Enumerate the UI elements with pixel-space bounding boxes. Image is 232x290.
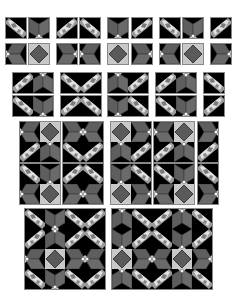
gem-diagonal-tl-br-icon <box>13 96 33 116</box>
gem-diagonal-tr-bl-icon <box>61 96 81 116</box>
chevron-down-icon <box>112 229 132 249</box>
gem-diagonal-tl-br-icon <box>154 164 174 184</box>
gem-diagonal-tr-bl-icon <box>152 209 172 229</box>
tile-group <box>5 43 27 65</box>
gem-diagonal-tr-bl-icon <box>20 142 40 162</box>
gem-diagonal-tl-br-icon <box>132 269 152 289</box>
tile-group <box>153 163 195 205</box>
chevron-right-icon <box>132 44 152 64</box>
gem-diagonal-tl-br-icon <box>132 209 152 229</box>
gem-diagonal-tr-bl-icon <box>211 18 231 38</box>
chevron-left-icon <box>80 44 100 64</box>
chevron-up-icon <box>45 229 65 249</box>
chevron-right-icon <box>198 184 218 204</box>
gem-diagonal-tr-bl-icon <box>154 142 174 162</box>
tile-group <box>12 95 54 117</box>
chevron-down-icon <box>45 209 65 229</box>
chevron-down-icon <box>172 229 192 249</box>
chevron-left-icon <box>6 44 26 64</box>
diamond-icon <box>174 122 194 142</box>
tile-group <box>62 121 104 163</box>
gem-diagonal-tr-bl-icon <box>204 96 224 116</box>
gem-diagonal-tr-bl-icon <box>192 229 212 249</box>
tile-group <box>203 95 225 117</box>
chevron-right-icon <box>131 184 151 204</box>
chevron-right-icon <box>63 122 83 142</box>
chevron-up-icon <box>108 73 128 93</box>
gem-diagonal-tl-br-icon <box>61 73 81 93</box>
chevron-up-icon <box>176 73 196 93</box>
tile-group <box>110 121 152 163</box>
gem-diagonal-tr-bl-icon <box>132 18 152 38</box>
chevron-right-icon <box>57 44 77 64</box>
diamond-icon <box>111 184 131 204</box>
tile-group <box>111 208 213 290</box>
tile-group <box>60 95 102 117</box>
tile-group <box>155 95 197 117</box>
gem-diagonal-tl-br-icon <box>81 96 101 116</box>
tile-group <box>79 17 101 39</box>
chevron-left-icon <box>154 184 174 204</box>
tile-group <box>203 72 225 94</box>
tile-group <box>131 43 153 65</box>
gem-diagonal-tl-br-icon <box>25 209 45 229</box>
gem-diagonal-tl-br-icon <box>198 164 218 184</box>
tile-group <box>155 72 197 94</box>
gem-diagonal-tl-br-icon <box>80 18 100 38</box>
chevron-down-icon <box>40 164 60 184</box>
tile-group <box>107 95 149 117</box>
gem-diagonal-tl-br-icon <box>63 142 83 162</box>
gem-diagonal-tl-br-icon <box>156 96 176 116</box>
tile-group <box>210 43 232 65</box>
chevron-up-icon <box>172 269 192 289</box>
tile-group <box>12 72 54 94</box>
chevron-left-icon <box>83 122 103 142</box>
chevron-up-icon <box>112 269 132 289</box>
chevron-right-icon <box>198 122 218 142</box>
gem-diagonal-tl-br-icon <box>65 209 85 229</box>
diamond-icon <box>40 122 60 142</box>
gem-diagonal-tl-br-icon <box>128 96 148 116</box>
gem-diagonal-tr-bl-icon <box>83 142 103 162</box>
diamond-icon <box>111 122 131 142</box>
chevron-left-icon <box>25 249 45 269</box>
tile-group <box>107 43 129 65</box>
tile-group <box>197 163 219 205</box>
tile-group <box>131 17 153 39</box>
gem-diagonal-tr-bl-icon <box>63 164 83 184</box>
gem-diagonal-tr-bl-icon <box>25 229 45 249</box>
tile-group <box>60 72 102 94</box>
diamond-icon <box>172 249 192 269</box>
tile-group <box>19 121 61 163</box>
chevron-up-icon <box>172 209 192 229</box>
gem-diagonal-tr-bl-icon <box>156 73 176 93</box>
tile-group <box>24 208 106 290</box>
chevron-down-icon <box>29 18 49 38</box>
tile-group <box>28 43 50 65</box>
chevron-left-icon <box>152 249 172 269</box>
gem-diagonal-tr-bl-icon <box>13 73 33 93</box>
gem-diagonal-tr-bl-icon <box>81 73 101 93</box>
tile-group <box>107 17 129 39</box>
diamond-icon <box>40 184 60 204</box>
chevron-up-icon <box>111 142 131 162</box>
chevron-left-icon <box>20 184 40 204</box>
gem-diagonal-tl-br-icon <box>85 229 105 249</box>
diamond-icon <box>174 184 194 204</box>
tile-group <box>28 17 50 39</box>
tile-group <box>182 17 204 39</box>
chevron-left-icon <box>85 249 105 269</box>
chevron-up-icon <box>174 142 194 162</box>
gem-diagonal-tr-bl-icon <box>85 209 105 229</box>
chevron-down-icon <box>108 18 128 38</box>
chevron-left-icon <box>20 122 40 142</box>
gem-diagonal-tl-br-icon <box>192 269 212 289</box>
chevron-up-icon <box>40 142 60 162</box>
tile-group <box>153 121 195 163</box>
gem-diagonal-tl-br-icon <box>65 269 85 289</box>
gem-diagonal-tl-br-icon <box>152 229 172 249</box>
tile-group <box>56 43 78 65</box>
gem-diagonal-tr-bl-icon <box>198 142 218 162</box>
chevron-down-icon <box>176 96 196 116</box>
chevron-down-icon <box>45 269 65 289</box>
